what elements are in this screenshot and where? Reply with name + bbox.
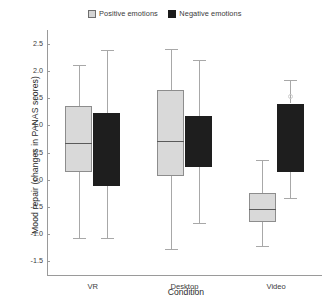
whisker-cap-lower	[284, 198, 297, 199]
boxplot-figure: Positive emotions Negative emotions Mood…	[0, 0, 329, 307]
y-tick-mark	[47, 71, 50, 72]
whisker-lower	[79, 172, 80, 238]
box-iqr	[185, 116, 212, 167]
y-tick-mark	[47, 125, 50, 126]
median-line	[157, 141, 184, 142]
y-tick-mark	[47, 44, 50, 45]
y-tick-mark	[47, 180, 50, 181]
whisker-cap-lower	[101, 238, 114, 239]
y-tick-mark	[47, 207, 50, 208]
whisker-cap-upper	[101, 50, 114, 51]
legend-swatch-positive-icon	[88, 10, 96, 18]
whisker-cap-upper	[73, 65, 86, 66]
box-iqr	[93, 113, 120, 186]
whisker-lower	[199, 167, 200, 223]
y-tick-label: -1.5	[13, 257, 43, 264]
y-tick-label: -1.0	[13, 230, 43, 237]
whisker-cap-lower	[165, 249, 178, 250]
legend-label-negative: Negative emotions	[179, 9, 241, 18]
box-iqr	[277, 104, 304, 172]
legend-label-positive: Positive emotions	[99, 9, 158, 18]
whisker-upper	[107, 50, 108, 113]
x-tick-label-desktop: Desktop	[150, 282, 220, 291]
legend-entry-positive: Positive emotions	[88, 9, 158, 18]
chart-legend: Positive emotions Negative emotions	[0, 9, 329, 18]
legend-entry-negative: Negative emotions	[168, 9, 242, 18]
outlier-point	[288, 94, 293, 99]
median-line	[65, 143, 92, 144]
plot-area: 2.52.01.51.00.50.0-0.5-1.0-1.5 VRDesktop…	[47, 30, 322, 275]
legend-swatch-negative-icon	[168, 10, 176, 18]
y-tick-mark	[47, 153, 50, 154]
y-tick-label: 1.5	[13, 94, 43, 101]
whisker-cap-lower	[256, 246, 269, 247]
whisker-lower	[262, 222, 263, 246]
y-tick-label: 1.0	[13, 121, 43, 128]
whisker-lower	[290, 172, 291, 198]
whisker-cap-upper	[193, 60, 206, 61]
y-tick-label: 0.0	[13, 176, 43, 183]
box-iqr	[65, 106, 92, 171]
median-line	[249, 209, 276, 210]
whisker-upper	[262, 160, 263, 193]
y-tick-mark	[47, 234, 50, 235]
box-iqr	[157, 90, 184, 175]
whisker-cap-lower	[73, 238, 86, 239]
y-tick-label: 2.5	[13, 40, 43, 47]
whisker-cap-upper	[256, 160, 269, 161]
whisker-lower	[107, 186, 108, 238]
x-tick-label-video: Video	[241, 282, 311, 291]
whisker-upper	[171, 49, 172, 91]
y-tick-mark	[47, 98, 50, 99]
whisker-cap-upper	[165, 49, 178, 50]
y-tick-mark	[47, 261, 50, 262]
whisker-cap-lower	[193, 223, 206, 224]
x-axis-line	[47, 275, 322, 276]
whisker-lower	[171, 176, 172, 250]
y-tick-label: 2.0	[13, 67, 43, 74]
whisker-cap-upper	[284, 80, 297, 81]
y-tick-label: 0.5	[13, 149, 43, 156]
whisker-upper	[199, 60, 200, 116]
whisker-upper	[79, 65, 80, 106]
whisker-upper	[290, 80, 291, 103]
y-tick-label: -0.5	[13, 203, 43, 210]
x-tick-label-vr: VR	[58, 282, 128, 291]
box-iqr	[249, 193, 276, 222]
